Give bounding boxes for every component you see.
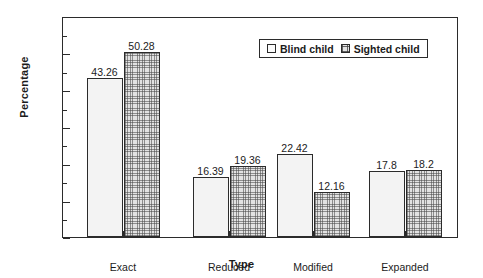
bar-reduced-sighted-child <box>230 166 266 237</box>
y-axis-minor-tick <box>63 220 67 221</box>
y-axis-minor-tick <box>63 146 67 147</box>
y-axis-tick <box>63 238 70 239</box>
bar-value-label: 22.42 <box>265 143 325 154</box>
bar-expanded-sighted-child <box>406 170 442 237</box>
plot-area: 010203040506043.2650.2816.3919.3622.4212… <box>62 17 458 238</box>
legend-swatch-blind-child <box>267 44 276 53</box>
y-axis-tick <box>63 165 70 166</box>
bar-exact-sighted-child <box>124 52 160 237</box>
legend-label-blind-child: Blind child <box>280 43 334 55</box>
y-axis-tick <box>63 128 70 129</box>
bar-value-label: 12.16 <box>302 181 362 192</box>
y-axis-tick <box>63 54 70 55</box>
y-axis-minor-tick <box>63 183 67 184</box>
bar-reduced-blind-child <box>193 177 229 237</box>
x-axis-tick-label: Expanded <box>360 261 450 273</box>
x-axis-tick-label: Reduced <box>184 261 274 273</box>
x-axis-tick-label: Modified <box>268 261 358 273</box>
y-axis-tick <box>63 17 70 18</box>
y-axis-minor-tick <box>63 110 67 111</box>
y-axis-tick <box>63 91 70 92</box>
y-axis-minor-tick <box>63 73 67 74</box>
bar-modified-blind-child <box>277 154 313 237</box>
y-axis-minor-tick <box>63 36 67 37</box>
y-axis-tick <box>63 202 70 203</box>
bar-modified-sighted-child <box>314 192 350 237</box>
legend-item-blind-child: Blind child <box>267 43 334 55</box>
bar-value-label: 19.36 <box>218 155 278 166</box>
legend-label-sighted-child: Sighted child <box>354 43 420 55</box>
chart-legend: Blind child Sighted child <box>259 39 428 58</box>
chart-figure: Percentage Type 010203040506043.2650.281… <box>0 0 483 278</box>
x-axis-tick-label: Exact <box>78 261 168 273</box>
y-axis-title: Percentage <box>15 37 33 137</box>
legend-item-sighted-child: Sighted child <box>341 43 420 55</box>
bar-value-label: 50.28 <box>112 41 172 52</box>
bar-exact-blind-child <box>87 78 123 237</box>
bar-value-label: 18.2 <box>394 159 454 170</box>
legend-swatch-sighted-child <box>341 44 350 53</box>
bar-expanded-blind-child <box>369 171 405 237</box>
